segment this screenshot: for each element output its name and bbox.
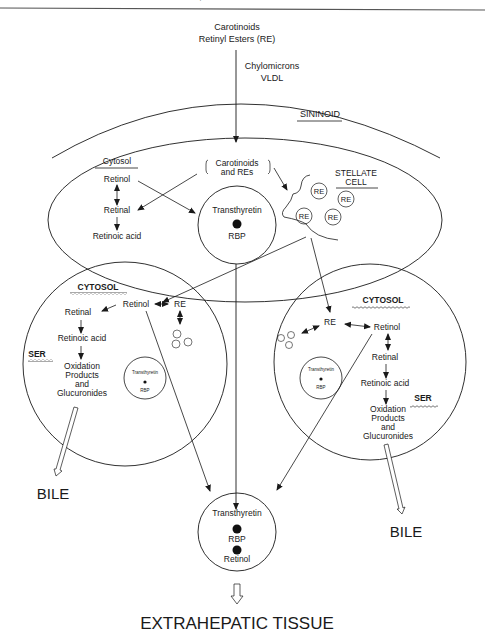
hollow-down-arrow-icon (231, 584, 243, 604)
circulating-rbp-label: RBP (228, 534, 246, 544)
top-rbp-dot (233, 220, 242, 229)
right-products-line: Glucuronides (363, 431, 413, 441)
carrier-vldl-label: VLDL (261, 73, 284, 83)
right-re-droplets-arrow (302, 326, 319, 333)
right-re-droplet (288, 332, 295, 339)
carrier-chylomicrons-label: Chylomicrons (245, 61, 300, 71)
left-re-droplet (173, 330, 181, 338)
sininoid: SININOID (52, 104, 440, 158)
right-re-droplet (278, 335, 285, 342)
input-carotinoids-label: Carotinoids (214, 22, 260, 32)
running-title: Y, OVERVIEW AND METABOLIC FUNCTIONS (193, 0, 440, 1)
left-re: RE (174, 299, 186, 309)
dietary-input: Carotinoids Retinyl Esters (RE) Chylomic… (199, 22, 300, 142)
right-ser-label: SER (414, 393, 431, 403)
stellate-droplet-label: RE (328, 213, 338, 222)
right-re: RE (324, 317, 336, 327)
left-retinol-retinal-arrow (102, 305, 116, 311)
extrahepatic-tissue-label: EXTRAHEPATIC TISSUE (140, 614, 334, 633)
carotinoids-to-stellate-arrow (274, 168, 287, 190)
right-hepatocyte: CYTOSOL RE Retinol Retinal Retinoic acid… (274, 264, 466, 490)
right-transthyretin-label: Transthyretin (308, 367, 335, 372)
left-ser-wavy-underline (28, 359, 53, 362)
stellate-membrane (282, 175, 338, 240)
right-cytosol-label: CYTOSOL (363, 295, 404, 305)
right-re-retinol-arrow (345, 324, 370, 327)
right-retinol: Retinol (374, 322, 401, 332)
sininoid-boundary (52, 104, 440, 158)
right-re-droplet (286, 342, 293, 349)
top-rbp-label: RBP (228, 231, 246, 241)
circulating-transthyretin-label: Transthyretin (212, 508, 262, 518)
left-re-droplet (184, 338, 192, 346)
left-ser-label: SER (28, 349, 45, 359)
top-retinol: Retinol (104, 174, 131, 184)
bile-left-label: BILE (37, 485, 70, 502)
left-transthyretin-label: Transthyretin (132, 370, 159, 375)
left-rbp-label: RBP (140, 388, 149, 393)
stellate-cell-label: CELL (345, 177, 367, 187)
left-cytosol-label: CYTOSOL (78, 282, 119, 292)
top-cytosol-label: Cytosol (103, 156, 131, 166)
right-rbp-label: RBP (316, 385, 325, 390)
running-header: Y, OVERVIEW AND METABOLIC FUNCTIONS (0, 0, 485, 10)
carotinoids-to-retinal-arrow (138, 174, 197, 210)
left-retinoic-acid: Retinoic acid (58, 333, 107, 343)
left-retinol: Retinol (123, 299, 150, 309)
left-hepatocyte: CYTOSOL Retinol RE Retinal Retinoic acid… (23, 262, 227, 491)
sininoid-label: SININOID (300, 109, 341, 119)
top-retinoic-acid: Retinoic acid (93, 231, 142, 241)
right-rbp-dot (319, 377, 322, 380)
input-retinyl-esters-label: Retinyl Esters (RE) (199, 34, 276, 44)
bile-right-label: BILE (390, 523, 423, 540)
bile-arrow-left (54, 407, 78, 476)
right-cytosol-wavy-underline (352, 306, 410, 309)
left-cytosol-wavy-underline (70, 292, 127, 295)
top-retinal: Retinal (104, 205, 131, 215)
retinoid-metabolism-diagram: Y, OVERVIEW AND METABOLIC FUNCTIONS Caro… (0, 0, 485, 636)
circulating-rbp-dot (233, 525, 242, 534)
stellate-droplet-label: RE (299, 212, 309, 221)
stellate-to-left-re-arrow (163, 237, 306, 302)
stellate-droplet-label: RE (314, 187, 324, 196)
circulating-retinol-label: Retinol (224, 554, 251, 564)
left-hollow-arrow-icon (54, 407, 78, 476)
top-transthyretin-label: Transthyretin (212, 205, 262, 215)
right-retinal: Retinal (372, 352, 399, 362)
left-retinal: Retinal (65, 307, 92, 317)
header-rule (0, 8, 485, 10)
stellate-droplet-label: RE (341, 195, 351, 204)
right-retinoic-acid: Retinoic acid (361, 378, 410, 388)
retinol-to-transthyretin-arrow (138, 181, 195, 213)
brace-right (268, 160, 270, 174)
left-products-line: Glucuronides (57, 388, 107, 398)
circulating-complex: Transthyretin RBP Retinol (198, 493, 276, 571)
stellate-to-right-re-arrow (311, 238, 330, 312)
brace-left (206, 160, 208, 174)
left-rbp-dot (143, 380, 146, 383)
right-ser-wavy-underline (410, 405, 438, 408)
top-res-label: and REs (221, 167, 254, 177)
left-re-droplet (172, 340, 180, 348)
